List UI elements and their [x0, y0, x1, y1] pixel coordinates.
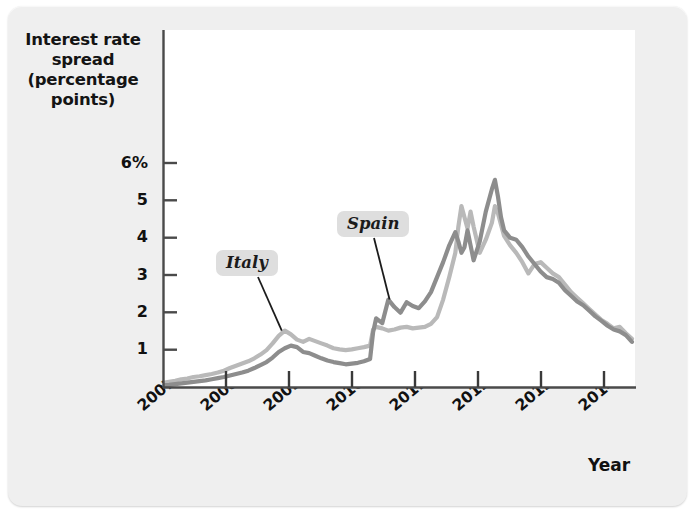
chart-figure: Interest rate spread (percentage points)… [0, 0, 695, 515]
plot-area [0, 0, 695, 515]
annotation-label-spain: Spain [337, 211, 409, 237]
annotation-label-italy: Italy [216, 250, 278, 276]
plot-background [163, 30, 635, 388]
